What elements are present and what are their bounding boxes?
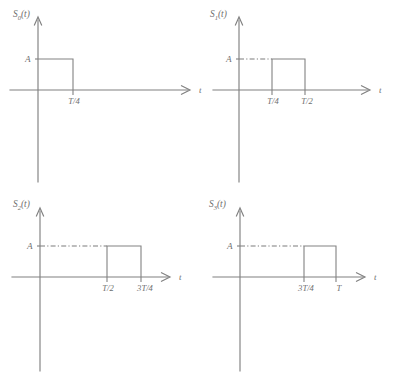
signal-waveform-figure: S0(t) A T/4 t S1(t) A T — [0, 0, 416, 379]
time-tick-label-0: T/4 — [68, 96, 80, 106]
signal-panel-s1: S1(t) A T/4 T/2 t — [208, 0, 416, 190]
time-axis-label: t — [179, 272, 182, 282]
signal-argument: (t) — [21, 199, 30, 210]
signal-panel-s0: S0(t) A T/4 t — [0, 0, 208, 190]
pulse-waveform — [304, 246, 336, 277]
signal-argument: (t) — [217, 199, 226, 210]
time-tick-label-1: T — [337, 283, 343, 293]
pulse-waveform — [107, 246, 141, 277]
time-axis-label: t — [374, 272, 377, 282]
time-tick-label-0: 3T/4 — [297, 283, 314, 293]
signal-panel-s2: S2(t) A T/2 3T/4 t — [0, 189, 208, 379]
signal-panel-s3: S3(t) A 3T/4 T t — [208, 189, 416, 379]
pulse-waveform — [38, 59, 73, 90]
amplitude-label: A — [24, 54, 31, 64]
signal-argument: (t) — [21, 9, 30, 20]
time-tick-label-1: 3T/4 — [136, 283, 153, 293]
signal-argument: (t) — [218, 9, 227, 20]
time-axis-label: t — [379, 85, 382, 95]
amplitude-label: A — [26, 241, 33, 251]
signal-name-label: S1(t) — [210, 9, 227, 21]
signal-name-label: S2(t) — [13, 199, 30, 211]
time-tick-label-0: T/4 — [267, 96, 279, 106]
signal-name-label: S3(t) — [209, 199, 226, 211]
amplitude-label: A — [226, 241, 233, 251]
time-tick-label-1: T/2 — [301, 96, 313, 106]
signal-name-label: S0(t) — [13, 9, 30, 21]
time-axis-label: t — [199, 85, 202, 95]
time-tick-label-0: T/2 — [102, 283, 114, 293]
pulse-waveform — [272, 59, 305, 90]
amplitude-label: A — [225, 54, 232, 64]
